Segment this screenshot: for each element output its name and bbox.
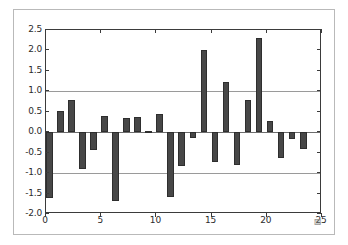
x-tick-mark-top bbox=[45, 29, 46, 33]
x-tick-mark bbox=[45, 213, 46, 217]
y-tick-label: -1.0 bbox=[16, 168, 42, 177]
y-tick-mark-right bbox=[317, 111, 321, 112]
x-tick-mark-top bbox=[100, 29, 101, 33]
bar bbox=[178, 132, 185, 166]
bar bbox=[167, 132, 174, 197]
y-tick-mark-right bbox=[317, 70, 321, 71]
x-tick-mark bbox=[266, 213, 267, 217]
bar bbox=[101, 116, 108, 132]
y-tick-mark bbox=[45, 193, 49, 194]
y-tick-mark bbox=[45, 49, 49, 50]
x-tick-mark bbox=[100, 213, 101, 217]
x-tick-mark-top bbox=[155, 29, 156, 33]
bar bbox=[145, 131, 152, 133]
bar bbox=[278, 132, 285, 158]
y-tick-label: -1.5 bbox=[16, 189, 42, 198]
bar bbox=[267, 121, 274, 132]
bar bbox=[156, 114, 163, 132]
y-tick-mark bbox=[45, 70, 49, 71]
gridline bbox=[46, 91, 320, 92]
bar bbox=[112, 132, 119, 200]
y-tick-mark-right bbox=[317, 193, 321, 194]
x-tick-mark-top bbox=[266, 29, 267, 33]
plot-area bbox=[45, 29, 321, 213]
x-axis-tick-labels: 0510152025 bbox=[45, 215, 321, 231]
bar bbox=[79, 132, 86, 168]
y-tick-label: 0.5 bbox=[16, 107, 42, 116]
y-tick-label: 1.5 bbox=[16, 66, 42, 75]
y-tick-label: 1.0 bbox=[16, 86, 42, 95]
gridline bbox=[46, 173, 320, 174]
y-tick-label: 0.0 bbox=[16, 127, 42, 136]
figure-frame: 2.52.01.51.00.50.0-0.5-1.0-1.5-2.0 05101… bbox=[13, 9, 335, 235]
bar bbox=[234, 132, 241, 164]
x-tick-mark-top bbox=[211, 29, 212, 33]
y-tick-mark-right bbox=[317, 49, 321, 50]
y-tick-mark bbox=[45, 172, 49, 173]
bar bbox=[300, 132, 307, 149]
bar bbox=[68, 100, 75, 132]
y-tick-mark-right bbox=[317, 131, 321, 132]
bar bbox=[201, 50, 208, 132]
y-tick-mark bbox=[45, 131, 49, 132]
screenshot-root: 2.52.01.51.00.50.0-0.5-1.0-1.5-2.0 05101… bbox=[0, 0, 348, 245]
bar bbox=[289, 132, 296, 139]
x-tick-mark bbox=[211, 213, 212, 217]
bar bbox=[123, 118, 130, 133]
bar bbox=[90, 132, 97, 150]
y-tick-mark-right bbox=[317, 152, 321, 153]
y-tick-mark-right bbox=[317, 172, 321, 173]
x-tick-mark-top bbox=[321, 29, 322, 33]
y-tick-mark bbox=[45, 111, 49, 112]
y-axis-tick-labels: 2.52.01.51.00.50.0-0.5-1.0-1.5-2.0 bbox=[14, 29, 42, 213]
bar-chart: 2.52.01.51.00.50.0-0.5-1.0-1.5-2.0 05101… bbox=[14, 10, 336, 236]
bar bbox=[212, 132, 219, 162]
y-tick-label: 2.5 bbox=[16, 25, 42, 34]
y-tick-label: 2.0 bbox=[16, 45, 42, 54]
y-tick-mark-right bbox=[317, 90, 321, 91]
bar bbox=[46, 132, 53, 198]
bar bbox=[223, 82, 230, 132]
y-tick-label: -0.5 bbox=[16, 148, 42, 157]
bar bbox=[134, 117, 141, 132]
y-tick-mark bbox=[45, 152, 49, 153]
corner-artifact-icon: ▨ bbox=[314, 218, 321, 226]
bar bbox=[245, 100, 252, 133]
bar bbox=[256, 38, 263, 132]
bar bbox=[190, 132, 197, 138]
y-tick-mark bbox=[45, 90, 49, 91]
bar bbox=[57, 111, 64, 133]
x-tick-mark bbox=[155, 213, 156, 217]
